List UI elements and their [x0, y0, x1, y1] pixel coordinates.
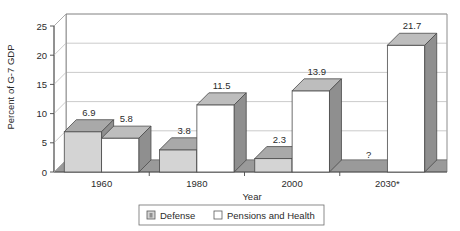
bar-value-label: 13.9: [308, 66, 327, 77]
bar-value-label: 2.3: [273, 134, 286, 145]
x-tick-label-2000: 2000: [282, 178, 303, 189]
chart-legend: Defense Pensions and Health: [139, 205, 324, 225]
bar-pensions-and-health-2000: [292, 79, 341, 172]
bar-front-face: [64, 132, 101, 172]
bar-front-face: [387, 45, 424, 172]
x-axis-title: Year: [242, 191, 261, 202]
bar-side-face: [425, 33, 437, 172]
bar-side-face: [329, 79, 341, 172]
bar-value-label: 5.8: [120, 113, 133, 124]
bar-front-face: [102, 138, 139, 172]
bar-pensions-and-health-2030: [387, 33, 436, 172]
y-tick-label: 10: [36, 108, 47, 119]
chart-container: 0510152025 6.95.83.811.52.313.9?21.7 196…: [0, 0, 460, 231]
x-tick-label-1980: 1980: [186, 178, 207, 189]
bar-value-label: 3.8: [178, 125, 191, 136]
x-tick-label-2030: 2030*: [375, 178, 400, 189]
legend-swatch-pensions: [214, 211, 222, 219]
x-axis-separators: [149, 172, 340, 176]
bar-side-face: [234, 93, 246, 172]
y-tick-label: 5: [42, 137, 47, 148]
bar-front-face: [255, 159, 292, 172]
bar-front-face: [292, 91, 329, 172]
bar-front-face: [160, 150, 197, 172]
x-tick-label-1960: 1960: [91, 178, 112, 189]
bar-pensions-and-health-1980: [197, 93, 246, 172]
bar-front-face: [197, 105, 234, 172]
bar-value-label: 6.9: [82, 107, 95, 118]
bar-value-label: 21.7: [403, 20, 422, 31]
y-tick-label: 25: [36, 21, 47, 32]
bar-value-label: 11.5: [213, 80, 231, 91]
y-axis-title: Percent of G-7 GDP: [5, 44, 16, 129]
x-axis-labels: 1960198020002030*: [91, 178, 400, 189]
bar-value-label: ?: [366, 149, 371, 160]
bar-chart: 0510152025 6.95.83.811.52.313.9?21.7 196…: [0, 0, 460, 231]
y-tick-label: 0: [42, 167, 47, 178]
y-tick-label: 15: [36, 79, 47, 90]
legend-label-pensions: Pensions and Health: [227, 210, 315, 221]
legend-swatch-defense-inner: [150, 213, 153, 218]
bar-pensions-and-health-1960: [102, 126, 151, 172]
y-tick-label: 20: [36, 50, 47, 61]
legend-label-defense: Defense: [160, 210, 195, 221]
